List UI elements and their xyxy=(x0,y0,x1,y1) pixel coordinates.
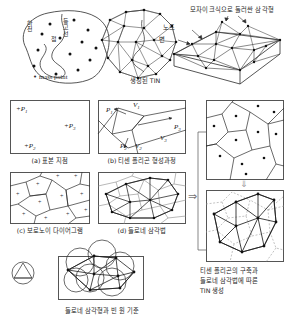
panel-d-caption: (d) 들로네 삼각법 xyxy=(98,226,186,235)
map-label-point: 점 xyxy=(50,36,58,42)
map-label-river: 하천 xyxy=(26,20,34,33)
panel-c-lines: ++ ++ ++ ++ ++ + xyxy=(10,172,90,224)
panel-d-lines xyxy=(98,172,186,224)
panel-b-point-p1: P1 xyxy=(106,106,113,115)
svg-text:+: + xyxy=(44,215,48,221)
svg-text:+: + xyxy=(56,173,60,179)
right-column-caption-line-3: TIN 생성 xyxy=(200,286,286,295)
panel-b-point-p2: P2 xyxy=(120,142,127,151)
svg-text:+: + xyxy=(60,193,64,199)
sample-point-p2: +P2 xyxy=(24,142,36,151)
panel-a-caption: (a) 표본 지점 xyxy=(10,156,90,165)
svg-text:+: + xyxy=(16,191,20,197)
edge-label: 변 xyxy=(159,36,165,45)
panel-b-vertex-v1: V1 xyxy=(133,101,140,110)
svg-text:+: + xyxy=(36,181,40,187)
empty-circle-figure xyxy=(50,240,154,302)
mass-point-marker-icon: • xyxy=(33,73,37,81)
svg-text:+: + xyxy=(66,211,70,217)
panel-b-vertex-v2: V2 xyxy=(135,142,142,151)
single-circumcircle-triangle xyxy=(8,258,38,288)
sample-point-p3: +P3 xyxy=(64,122,76,131)
arrow-down-icon: ⇓ xyxy=(240,178,248,190)
tin-3d-block xyxy=(170,14,286,92)
mass-point-label: mass point xyxy=(39,73,67,80)
right-overlay-lines xyxy=(206,190,284,262)
panel-c-caption: (c) 보로노이 다이어그램 xyxy=(4,226,96,235)
panel-b-vertex-v3: V3 xyxy=(160,134,167,143)
panel-b-caption: (b) 티센 폴리곤 형성과정 xyxy=(94,156,190,165)
map-label-contour: 등고선 xyxy=(62,18,70,37)
right-column-caption-line-1: 티센 폴리곤의 구축과 xyxy=(200,266,286,275)
mosaic-triangle-caption: 모자이크식으로 둘러싼 삼각형 xyxy=(178,5,286,14)
svg-text:+: + xyxy=(22,211,26,217)
point-text: 점 xyxy=(51,35,57,42)
sample-point-p1: +P1 xyxy=(16,105,28,114)
svg-text:+: + xyxy=(74,173,78,179)
svg-text:+: + xyxy=(80,191,84,197)
empty-circle-caption: 들로네 삼각형과 빈 원 기준 xyxy=(52,306,152,315)
svg-text:+: + xyxy=(38,199,42,205)
right-column-caption-line-2: 들로네 삼각법에 따른 xyxy=(200,276,286,285)
panel-b-point-p3: P3 xyxy=(174,123,181,132)
mass-point-legend: • mass point xyxy=(33,73,68,82)
node-label: 노드 xyxy=(163,24,175,33)
river-text: 하천 xyxy=(27,19,33,32)
svg-text:+: + xyxy=(84,207,88,213)
right-voronoi-lines xyxy=(206,100,284,180)
contour-text: 등고선 xyxy=(63,17,69,37)
